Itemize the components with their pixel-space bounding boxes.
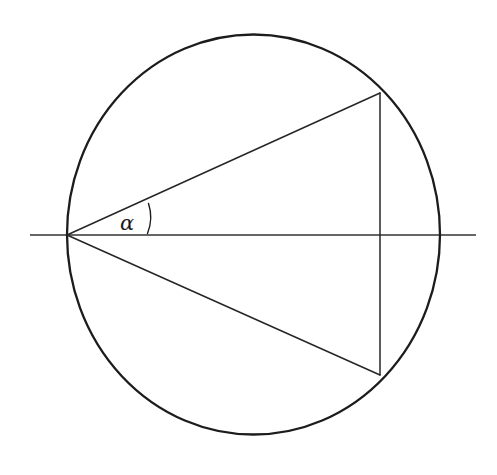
- alpha-angle-arc-marker: [148, 204, 151, 234]
- figure-root: α: [0, 0, 497, 475]
- geometry-canvas: α: [0, 0, 497, 475]
- chord-apex-to-upper-right: [67, 93, 380, 235]
- chord-apex-to-lower-right: [67, 235, 380, 375]
- alpha-angle-label: α: [120, 211, 134, 235]
